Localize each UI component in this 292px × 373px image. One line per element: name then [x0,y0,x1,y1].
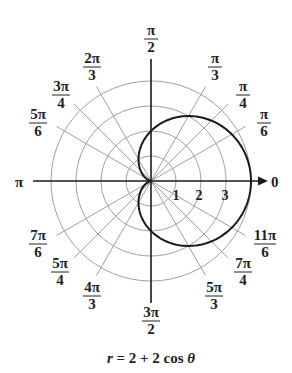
label-5pi-over-4: 5π 4 [51,255,69,288]
label-pi: π [15,174,24,190]
label-pi-over-2: π 2 [144,22,158,55]
spoke-line [57,127,151,182]
svg-text:π: π [260,106,269,122]
svg-text:5π: 5π [52,255,69,271]
spoke-line [97,87,152,181]
svg-text:7π: 7π [30,227,47,243]
svg-text:3: 3 [88,296,96,312]
label-11pi-over-6: 11π 6 [254,227,277,260]
svg-text:3π: 3π [143,304,160,320]
label-zero: 0 [271,174,279,190]
svg-text:2: 2 [147,39,155,55]
svg-text:3π: 3π [53,78,70,94]
label-5pi-over-3: 5π 3 [205,279,223,312]
radial-tick-labels: 1 2 3 [173,188,229,203]
svg-text:4: 4 [239,95,247,111]
tick-label-2: 2 [196,188,203,203]
svg-text:π: π [211,50,220,66]
tick-label-1: 1 [173,188,180,203]
svg-text:6: 6 [260,123,268,139]
tick-label-3: 3 [222,188,229,203]
label-7pi-over-4: 7π 4 [234,255,252,288]
label-3pi-over-4: 3π 4 [52,78,70,111]
label-5pi-over-6: 5π 6 [29,106,47,139]
polar-plot: 1 2 3 π 2 π 3 π 4 π 6 0 [0,0,292,373]
svg-text:6: 6 [34,244,42,260]
svg-text:6: 6 [34,123,42,139]
svg-text:3: 3 [210,296,218,312]
label-pi-over-6: π 6 [257,106,271,139]
svg-text:4: 4 [239,272,247,288]
svg-text:3: 3 [88,67,96,83]
svg-text:11π: 11π [254,227,277,243]
label-pi-over-3: π 3 [208,50,222,83]
svg-text:2π: 2π [84,50,101,66]
label-3pi-over-2: 3π 2 [142,304,160,337]
svg-text:5π: 5π [30,106,47,122]
svg-text:6: 6 [261,244,269,260]
spoke-line [57,181,151,236]
svg-text:3: 3 [211,67,219,83]
svg-text:π: π [147,22,156,38]
svg-text:5π: 5π [206,279,223,295]
label-4pi-over-3: 4π 3 [83,279,101,312]
svg-text:4π: 4π [84,279,101,295]
svg-text:π: π [239,78,248,94]
spoke-line [97,181,152,275]
chart-caption: r = 2 + 2 cos θ [107,350,195,366]
svg-text:7π: 7π [235,255,252,271]
arrow-head-icon [258,177,268,186]
spoke-line [151,87,206,181]
label-2pi-over-3: 2π 3 [83,50,101,83]
svg-text:2: 2 [147,321,155,337]
svg-text:4: 4 [56,272,64,288]
svg-text:4: 4 [57,95,65,111]
label-pi-over-4: π 4 [236,78,250,111]
label-7pi-over-6: 7π 6 [29,227,47,260]
